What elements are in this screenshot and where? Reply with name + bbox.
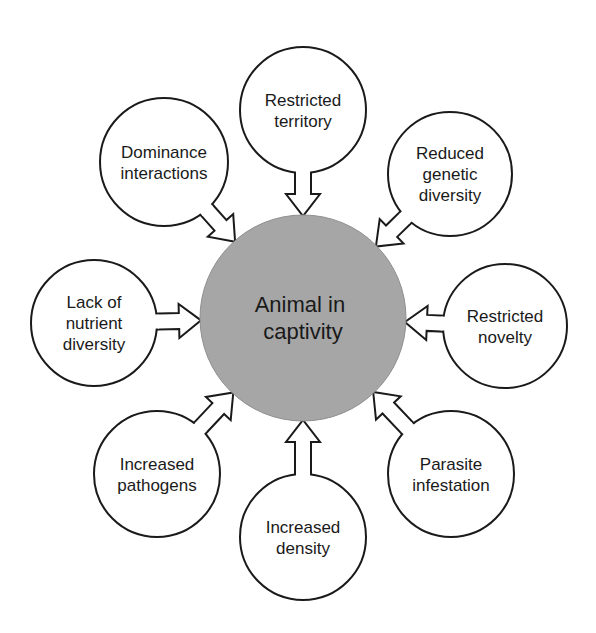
node-label-line: Restricted bbox=[265, 91, 342, 110]
node-label-line: Increased bbox=[266, 518, 341, 537]
node-label-line: Parasite bbox=[420, 455, 482, 474]
node-restricted-territory: Restrictedterritory bbox=[240, 47, 366, 173]
node-label-line: pathogens bbox=[117, 476, 196, 495]
center-label-line-1: Animal in bbox=[255, 292, 345, 317]
node-increased-pathogens: Increasedpathogens bbox=[94, 411, 220, 537]
center-circle bbox=[200, 215, 406, 421]
node-label-line: Restricted bbox=[467, 307, 544, 326]
node-label-line: diversity bbox=[419, 186, 482, 205]
node-label-line: nutrient bbox=[66, 314, 123, 333]
captivity-factors-diagram: RestrictedterritoryReducedgeneticdiversi… bbox=[0, 0, 596, 633]
node-circle bbox=[240, 474, 366, 600]
center-label-line-2: captivity bbox=[263, 319, 342, 344]
node-circle bbox=[443, 264, 567, 388]
node-lack-of-nutrient-diversity: Lack ofnutrientdiversity bbox=[31, 260, 157, 386]
node-label-line: Reduced bbox=[416, 144, 484, 163]
node-label-line: Increased bbox=[120, 455, 195, 474]
center-node: Animal in captivity bbox=[200, 215, 406, 421]
node-circle bbox=[240, 47, 366, 173]
node-dominance-interactions: Dominanceinteractions bbox=[100, 98, 228, 226]
node-label: Reducedgeneticdiversity bbox=[416, 144, 484, 205]
node-increased-density: Increaseddensity bbox=[240, 474, 366, 600]
node-label-line: interactions bbox=[121, 164, 208, 183]
node-label-line: infestation bbox=[412, 476, 490, 495]
node-label-line: Dominance bbox=[121, 143, 207, 162]
node-label: Lack ofnutrientdiversity bbox=[63, 293, 126, 354]
node-label-line: novelty bbox=[478, 328, 532, 347]
node-label-line: territory bbox=[274, 112, 332, 131]
node-label-line: genetic bbox=[423, 165, 478, 184]
node-restricted-novelty: Restrictednovelty bbox=[443, 264, 567, 388]
node-label-line: Lack of bbox=[67, 293, 122, 312]
node-reduced-genetic-diversity: Reducedgeneticdiversity bbox=[388, 112, 512, 236]
node-label-line: density bbox=[276, 539, 330, 558]
node-label-line: diversity bbox=[63, 335, 126, 354]
node-parasite-infestation: Parasiteinfestation bbox=[388, 411, 514, 537]
arrow-joint bbox=[443, 317, 444, 331]
